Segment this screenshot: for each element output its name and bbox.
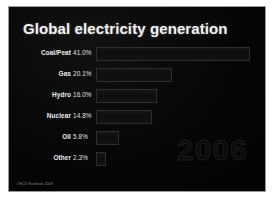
bar-category-label: Other (15, 154, 71, 161)
presentation-slide: Global electricity generation 2006 Coal/… (8, 6, 266, 192)
bar-row: Other2.3% (9, 152, 265, 166)
slide-title: Global electricity generation (23, 20, 228, 37)
bar-category-label: Gas (15, 70, 71, 77)
source-footnote: OECD Factbook 2008 (17, 182, 53, 186)
bar-value-label: 20.1% (73, 70, 97, 77)
bar-rect (96, 89, 157, 103)
bar-rect (96, 47, 250, 61)
bar-category-label: Nuclear (15, 112, 71, 119)
bar-value-label: 2.3% (73, 154, 97, 161)
bar-rect (96, 131, 119, 145)
bar-value-label: 5.8% (73, 133, 97, 140)
bar-rect (96, 152, 106, 166)
bar-row: Oil5.8% (9, 131, 265, 145)
bar-value-label: 14.8% (73, 112, 97, 119)
bar-value-label: 16.0% (73, 91, 97, 98)
bar-category-label: Coal/Peat (15, 49, 71, 56)
bar-value-label: 41.0% (73, 49, 97, 56)
bar-row: Hydro16.0% (9, 89, 265, 103)
bar-chart: Coal/Peat41.0%Gas20.1%Hydro16.0%Nuclear1… (9, 47, 265, 175)
bar-row: Coal/Peat41.0% (9, 47, 265, 61)
bar-rect (96, 110, 152, 124)
bar-row: Nuclear14.8% (9, 110, 265, 124)
bar-category-label: Hydro (15, 91, 71, 98)
bar-rect (96, 68, 172, 82)
bar-row: Gas20.1% (9, 68, 265, 82)
bar-category-label: Oil (15, 133, 71, 140)
